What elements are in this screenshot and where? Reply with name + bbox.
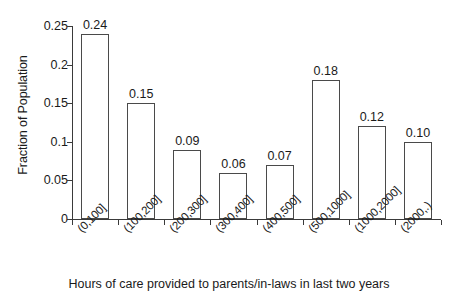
bar-group: 0.06	[219, 26, 247, 219]
bar-group: 0.10	[404, 26, 432, 219]
bar-value-label: 0.24	[83, 19, 107, 32]
bar-group: 0.24	[81, 26, 109, 219]
bar-value-label: 0.09	[175, 135, 199, 148]
bar-value-label: 0.07	[267, 150, 291, 163]
x-axis-tick-mark	[441, 220, 442, 225]
y-axis-tick-mark	[67, 103, 72, 104]
y-axis-tick-label: 0.1	[30, 136, 68, 148]
x-axis-tick-mark	[257, 220, 258, 225]
bar-group: 0.15	[127, 26, 155, 219]
y-axis-tick-label: 0.05	[30, 174, 68, 186]
y-axis-tick-label: 0	[30, 213, 68, 225]
bar-group: 0.09	[173, 26, 201, 219]
bar-group: 0.18	[312, 26, 340, 219]
y-axis-tick-label: 0.25	[30, 20, 68, 32]
bar-value-label: 0.18	[314, 65, 338, 78]
x-axis-tick-mark	[395, 220, 396, 225]
x-axis-title: Hours of care provided to parents/in-law…	[0, 277, 458, 291]
y-axis-tick-label: 0.15	[30, 97, 68, 109]
bar-value-label: 0.10	[406, 127, 430, 140]
bar[interactable]	[81, 34, 109, 219]
x-axis-tick-mark	[118, 220, 119, 225]
x-axis-tick-mark	[72, 220, 73, 225]
y-axis-tick-mark	[67, 26, 72, 27]
bar-group: 0.07	[266, 26, 294, 219]
x-axis-tick-mark	[303, 220, 304, 225]
bar-value-label: 0.15	[129, 88, 153, 101]
bar-chart-figure: Fraction of Population 00.050.10.150.20.…	[0, 0, 458, 296]
bar-group: 0.12	[358, 26, 386, 219]
y-axis-tick-label: 0.2	[30, 59, 68, 71]
x-axis-tick-mark	[164, 220, 165, 225]
plot-area: 0.240.150.090.060.070.180.120.10	[72, 26, 441, 219]
x-axis-tick-mark	[349, 220, 350, 225]
bar-value-label: 0.12	[360, 111, 384, 124]
y-axis-tick-mark	[67, 65, 72, 66]
y-axis-tick-mark	[67, 142, 72, 143]
bar-value-label: 0.06	[221, 158, 245, 171]
x-axis-tick-mark	[210, 220, 211, 225]
y-axis-tick-labels: 00.050.10.150.20.25	[28, 0, 68, 296]
y-axis-tick-mark	[67, 180, 72, 181]
